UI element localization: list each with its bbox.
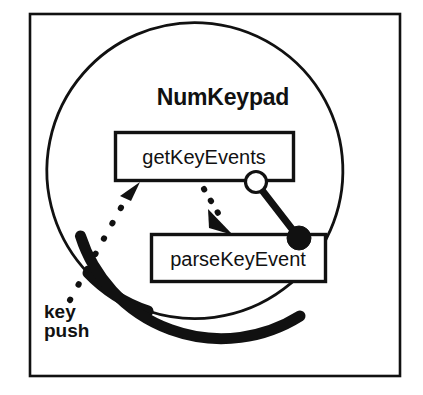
component-title: NumKeypad [157,84,289,110]
key-push-label-line1: key [44,301,76,322]
box-get-key-events[interactable]: getKeyEvents [116,133,294,181]
diagram-svg: NumKeypad getKeyEvents parseKeyEvent [0,0,423,395]
required-interface-ball-icon[interactable] [287,226,311,250]
box-parse-key-event-label: parseKeyEvent [170,248,306,270]
box-get-key-events-label: getKeyEvents [142,146,265,168]
key-push-label-line2: push [44,320,89,341]
provided-interface-socket-icon[interactable] [246,172,267,193]
diagram-canvas: NumKeypad getKeyEvents parseKeyEvent [0,0,423,395]
